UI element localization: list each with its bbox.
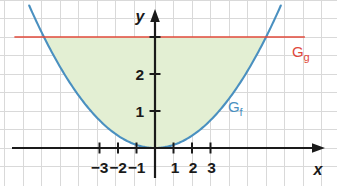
x-tick-label-1: 1: [171, 159, 180, 176]
curve-label-gf: G: [228, 98, 240, 115]
x-tick-label-neg1: −1: [128, 159, 146, 176]
x-tick-label-neg3: −3: [91, 159, 109, 176]
curve-label-gg-subscript: g: [304, 51, 310, 63]
math-figure-parabola-area: −3 −2 −1 1 2 3 1 2 x y G f G g: [0, 0, 337, 186]
x-axis-label: x: [313, 161, 324, 178]
y-tick-label-2: 2: [135, 66, 144, 83]
x-tick-label-neg2: −2: [109, 159, 127, 176]
y-axis-label: y: [135, 8, 146, 25]
coordinate-plot: −3 −2 −1 1 2 3 1 2 x y G f G g: [0, 0, 337, 186]
y-tick-label-1: 1: [135, 103, 144, 120]
x-tick-label-3: 3: [207, 159, 216, 176]
x-tick-label-2: 2: [189, 159, 198, 176]
curve-label-gg: G: [292, 43, 304, 60]
